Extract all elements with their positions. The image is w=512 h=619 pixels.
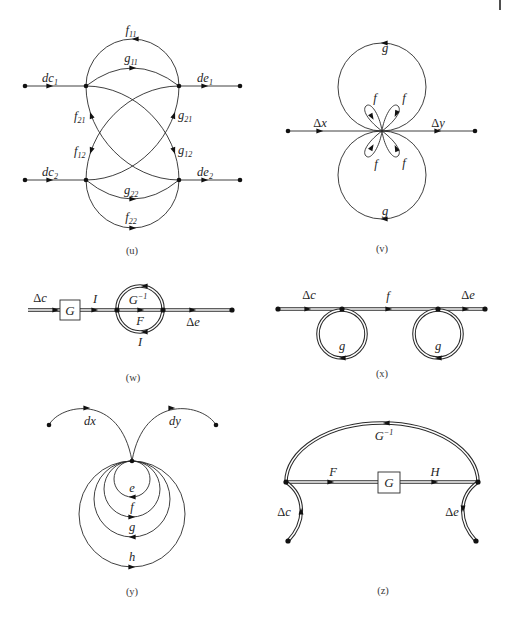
label-dc2: dc2: [42, 165, 58, 181]
node: [177, 84, 182, 89]
arrow-icon: [88, 147, 95, 155]
label-f22: f22: [125, 210, 136, 226]
label-de2: de2: [197, 165, 213, 181]
label-g-right: g: [435, 339, 441, 353]
label-delta-e: Δe: [186, 315, 200, 329]
node: [47, 423, 52, 428]
label-e: e: [129, 481, 135, 495]
node: [229, 307, 234, 312]
node: [84, 178, 89, 183]
node: [473, 129, 478, 134]
caption-w: (w): [126, 372, 141, 384]
arrow-icon: [83, 406, 90, 411]
node: [286, 129, 291, 134]
diagram-z: G G−1 F H Δc Δe (z): [277, 421, 480, 598]
arrow-icon: [129, 226, 136, 231]
loop-f-lower-right: [382, 131, 399, 157]
label-f21: f21: [74, 109, 85, 125]
label-dx: dx: [84, 414, 96, 428]
signal-flow-graphs: dc1 de1 dc2 de2 f11 g11 g22 f22 f21 f12 …: [0, 0, 512, 619]
label-delta-c: Δc: [302, 288, 316, 302]
node: [339, 306, 344, 311]
arrow-icon: [128, 515, 135, 520]
node: [435, 306, 440, 311]
diagram-x: Δc f Δe g g (x): [275, 288, 487, 380]
label-de1: de1: [197, 71, 213, 87]
label-f-upper-left: f: [373, 91, 378, 105]
label-g-inverse: G−1: [375, 428, 393, 443]
block-g-label: G: [384, 475, 394, 490]
arrow-icon: [129, 535, 136, 540]
label-delta-y: Δy: [431, 116, 445, 130]
label-h: h: [129, 550, 135, 564]
node: [114, 307, 119, 312]
diagram-w: G Δc I G−1 F I Δe (w): [28, 284, 235, 385]
node: [84, 84, 89, 89]
label-delta-c: Δc: [277, 505, 291, 519]
caption-z: (z): [377, 585, 389, 597]
label-i-top: I: [92, 292, 98, 306]
label-f-lower-right: f: [402, 156, 407, 170]
arrow-icon: [170, 147, 177, 155]
arrow-icon: [368, 143, 376, 151]
arrow-icon: [368, 113, 376, 121]
caption-v: (v): [376, 243, 389, 255]
caption-x: (x): [376, 368, 389, 380]
label-f: F: [328, 465, 337, 479]
loop-f-upper-right: [382, 105, 399, 131]
label-f-lower-left: f: [374, 157, 379, 171]
label-i-bottom: I: [137, 335, 143, 349]
node: [160, 307, 165, 312]
branch-g11: [86, 68, 179, 86]
label-dy: dy: [169, 414, 181, 428]
arrow-icon: [88, 111, 95, 119]
label-dc1: dc1: [42, 71, 58, 87]
label-delta-x: Δx: [313, 116, 327, 130]
label-f: f: [386, 289, 391, 303]
figure-page: dc1 de1 dc2 de2 f11 g11 g22 f22 f21 f12 …: [0, 0, 512, 619]
label-g: g: [129, 520, 135, 534]
node: [285, 538, 290, 543]
node: [283, 479, 288, 484]
label-f-upper-right: f: [402, 91, 407, 105]
node: [214, 423, 219, 428]
label-f12: f12: [74, 144, 85, 160]
node: [473, 538, 478, 543]
label-f11: f11: [126, 23, 137, 39]
label-g-inverse: G−1: [129, 292, 147, 307]
label-h: H: [429, 465, 440, 479]
branch-delta-e: [463, 482, 478, 541]
label-f: f: [130, 500, 135, 514]
caption-y: (y): [126, 586, 139, 598]
diagram-y: dx dy e f g h (y): [47, 406, 219, 599]
node: [238, 84, 243, 89]
label-delta-c: Δc: [33, 291, 47, 305]
caption-u: (u): [126, 245, 139, 257]
arrow-icon: [170, 111, 177, 119]
label-g22: g22: [124, 183, 138, 199]
loop-f-lower-left: [365, 131, 382, 157]
label-g21: g21: [178, 108, 192, 124]
loop-f-upper-left: [365, 105, 382, 131]
arrow-icon: [128, 565, 135, 570]
label-g-top: g: [382, 41, 388, 55]
label-g-bottom: g: [382, 204, 388, 218]
node: [482, 306, 487, 311]
block-g-label: G: [65, 303, 75, 318]
label-g12: g12: [178, 143, 192, 159]
loop-g-top: [338, 43, 426, 131]
node: [238, 178, 243, 183]
node: [275, 306, 280, 311]
label-f: F: [135, 314, 144, 328]
node: [177, 178, 182, 183]
arrow-icon: [129, 495, 136, 500]
node: [23, 84, 28, 89]
label-delta-e: Δe: [445, 505, 459, 519]
node: [23, 178, 28, 183]
node: [130, 459, 135, 464]
node: [475, 479, 480, 484]
label-g-left: g: [339, 339, 345, 353]
diagram-u: dc1 de1 dc2 de2 f11 g11 g22 f22 f21 f12 …: [23, 23, 243, 257]
label-g11: g11: [124, 51, 138, 67]
label-delta-e: Δe: [461, 288, 475, 302]
